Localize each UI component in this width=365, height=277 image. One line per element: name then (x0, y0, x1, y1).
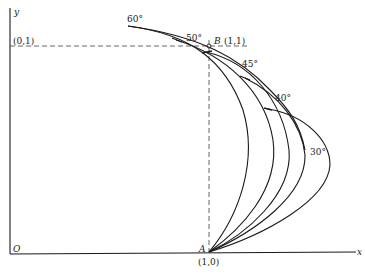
point-b-coord: (1,1) (224, 37, 245, 46)
angle-label-40: 40° (275, 94, 291, 103)
angle-label-30: 30° (310, 148, 326, 157)
curve-40 (209, 78, 305, 252)
curve-50 (176, 40, 274, 252)
trajectory-diagram (0, 0, 365, 277)
x-axis (10, 252, 356, 254)
angle-label-45: 45° (242, 60, 258, 69)
curve-30 (209, 109, 330, 252)
angle-label-60: 60° (127, 15, 143, 24)
point-a-coord: (1,0) (198, 258, 219, 267)
curve-45 (206, 52, 289, 252)
y-axis-label: y (14, 8, 19, 17)
point-b-label: B (214, 37, 221, 46)
point-a-label: A (199, 245, 206, 254)
origin-label: O (13, 245, 20, 254)
curve-60 (128, 26, 248, 252)
point-c-coord: (0,1) (13, 37, 34, 46)
x-axis-label: x (357, 248, 362, 257)
angle-label-50: 50° (186, 34, 202, 43)
